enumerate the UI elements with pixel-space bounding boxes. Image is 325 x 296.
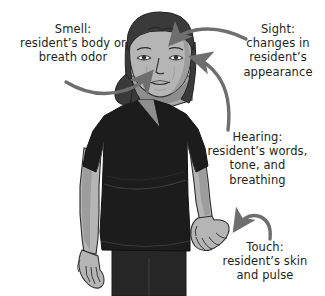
- illustration-canvas: Smell: resident’s body or breath odor Si…: [0, 0, 325, 296]
- hearing-line-4: breathing: [190, 173, 325, 187]
- hearing-line-1: Hearing:: [190, 130, 325, 144]
- smell-line-1: Smell:: [2, 22, 144, 36]
- hearing-line-2: resident’s words,: [190, 144, 325, 158]
- touch-line-3: and pulse: [205, 268, 325, 282]
- sight-line-1: Sight:: [232, 22, 324, 36]
- hearing-callout-label: Hearing: resident’s words, tone, and bre…: [190, 130, 325, 187]
- smell-line-3: breath odor: [2, 50, 144, 64]
- touch-line-1: Touch:: [205, 240, 325, 254]
- sight-line-4: appearance: [232, 65, 324, 79]
- sight-line-3: resident’s: [232, 50, 324, 64]
- touch-line-2: resident’s skin: [205, 254, 325, 268]
- figure-left-hand: [78, 250, 104, 288]
- smell-line-2: resident’s body or: [2, 36, 144, 50]
- touch-callout-label: Touch: resident’s skin and pulse: [205, 240, 325, 283]
- smell-callout-label: Smell: resident’s body or breath odor: [2, 22, 144, 65]
- hearing-line-3: tone, and: [190, 158, 325, 172]
- sight-line-2: changes in: [232, 36, 324, 50]
- sight-callout-label: Sight: changes in resident’s appearance: [232, 22, 324, 79]
